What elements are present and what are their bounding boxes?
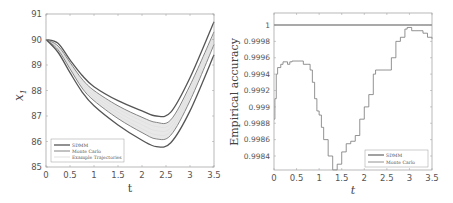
y-tick-label: 91 (31, 9, 42, 19)
figure: 00.511.522.533.5 85868788899091 t x1 SDM… (0, 0, 453, 203)
right-plot-frame (274, 13, 432, 170)
left-x-axis-label: t (128, 182, 133, 195)
right-legend: SDMM Monte Carlo (365, 150, 428, 167)
y-tick-label: 0.9994 (244, 70, 270, 79)
x-tick-label: 1 (91, 170, 96, 180)
x-tick-label: 1.5 (335, 173, 349, 183)
x-tick-label: 1.5 (111, 170, 125, 180)
x-tick-label: 3.5 (207, 170, 221, 180)
right-plot-lines (274, 25, 432, 170)
x-tick-label: 3.5 (425, 173, 439, 183)
x-tick-label: 2.5 (159, 170, 173, 180)
x-tick-label: 0.5 (63, 170, 77, 180)
x-tick-label: 0 (43, 170, 48, 180)
y-tick-label: 88 (31, 86, 42, 96)
y-tick-label: 90 (31, 35, 42, 45)
monte-carlo-line (46, 32, 214, 124)
y-tick-label: 0.9996 (244, 53, 270, 62)
legend-label-monte-carlo: Monte Carlo (72, 149, 101, 154)
y-tick-label: 86 (31, 137, 42, 147)
y-tick-label: 0.999 (249, 103, 271, 112)
x-tick-label: 0.5 (290, 173, 304, 183)
monte-carlo-line (274, 27, 432, 169)
left-plot-lines (46, 22, 214, 148)
y-tick-label: 0.9998 (244, 37, 270, 46)
y-tick-label: 85 (31, 162, 42, 172)
y-tick-label: 87 (31, 111, 42, 121)
legend-label-sdmm: SDMM (72, 143, 89, 148)
x-tick-label: 2 (362, 173, 367, 183)
x-tick-label: 2 (139, 170, 144, 180)
y-tick-label: 1 (265, 21, 270, 30)
y-tick-label: 0.9992 (244, 86, 270, 95)
legend-label-sdmm: SDMM (386, 153, 403, 158)
y-tick-label: 0.9988 (244, 119, 270, 128)
right-plot: 00.511.522.533.5 0.99840.99860.99880.999… (228, 13, 439, 197)
left-plot: 00.511.522.533.5 85868788899091 t x1 SDM… (12, 9, 221, 195)
x-tick-label: 0 (271, 173, 276, 183)
left-y-axis-label: x1 (12, 89, 28, 101)
monte-carlo-band (46, 32, 214, 140)
left-legend: SDMM Monte Carlo Example Trajectories (51, 139, 124, 162)
y-tick-label: 0.9984 (244, 152, 270, 161)
right-x-axis-label: t (351, 184, 356, 197)
x-tick-label: 3 (187, 170, 192, 180)
x-tick-label: 1 (316, 173, 321, 183)
legend-label-monte-carlo: Monte Carlo (386, 160, 415, 165)
y-tick-label: 89 (31, 60, 42, 70)
y-tick-label: 0.9986 (244, 135, 270, 144)
x-tick-label: 2.5 (380, 173, 394, 183)
right-y-axis-label: Empirical accuracy (228, 37, 241, 145)
svg-text:x1: x1 (12, 89, 28, 101)
x-tick-label: 3 (407, 173, 412, 183)
right-y-ticks: 0.99840.99860.99880.9990.99920.99940.999… (244, 21, 432, 161)
